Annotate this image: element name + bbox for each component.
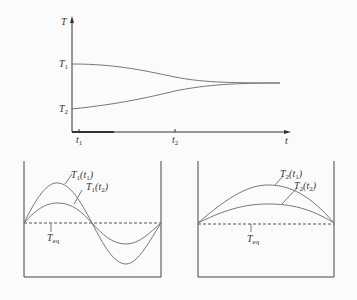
x-tick-t1: t1 [76,134,83,147]
y-tick-T1: T1 [59,58,69,71]
x-axis-label: t [285,135,288,146]
right-eq-label: Teq [247,233,260,246]
right-panel: T2(t1) T2(t2) Teq [198,161,334,277]
left-curve2-label: T1(t2) [86,181,109,194]
y-tick-T2: T2 [59,103,69,116]
y-axis-arrow-icon [70,16,74,23]
x-axis-arrow-icon [284,130,291,134]
diagram-canvas: T t T1 T2 t1 t2 T1(t1) T1(t2) Teq T2(t1)… [0,0,357,300]
left-panel: T1(t1) T1(t2) Teq [24,161,161,277]
top-plot: T t T1 T2 t1 t2 [59,16,291,147]
y-axis-label: T [61,16,68,27]
right-curve2-label: T2(t2) [294,180,317,193]
left-eq-label: Teq [47,232,60,245]
x-tick-t2: t2 [172,134,179,147]
